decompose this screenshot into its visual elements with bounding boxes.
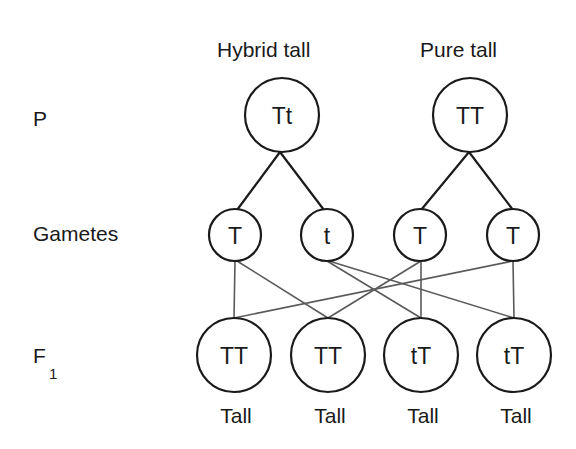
row-label-f1-letter: F (33, 344, 46, 367)
cross-line (234, 261, 513, 318)
offspring-genotype: TT (314, 343, 342, 369)
branch-line (237, 152, 280, 210)
parent-gamete-branches (237, 152, 513, 210)
branch-line (469, 152, 513, 210)
offspring-phenotype: Tall (314, 404, 346, 427)
row-label-f1-subscript: 1 (49, 365, 57, 382)
offspring-phenotype: Tall (407, 404, 439, 427)
monohybrid-cross-diagram: Hybrid tall Pure tall P Gametes F 1 Tt T… (0, 0, 576, 449)
offspring-node: TT Tall (197, 318, 271, 427)
gamete-allele: T (228, 223, 242, 249)
cross-line (234, 261, 235, 318)
gamete-allele: T (413, 223, 427, 249)
header-pure-tall: Pure tall (420, 38, 497, 61)
offspring-node: tT Tall (477, 318, 551, 427)
branch-line (421, 152, 469, 210)
parent-genotype: TT (456, 103, 484, 129)
offspring-genotype: tT (504, 343, 524, 369)
offspring-node: tT Tall (384, 318, 458, 427)
cross-line (237, 261, 328, 318)
row-label-f1: F 1 (33, 344, 57, 382)
row-label-parent: P (33, 107, 47, 130)
branch-line (280, 152, 324, 210)
offspring-genotype: tT (411, 343, 431, 369)
offspring-phenotype: Tall (500, 404, 532, 427)
parent-node-pure: TT (433, 78, 507, 152)
parent-genotype: Tt (272, 103, 293, 129)
gamete-node: t (301, 209, 353, 261)
row-label-gametes: Gametes (33, 222, 118, 245)
parent-node-hybrid: Tt (245, 78, 319, 152)
offspring-node: TT Tall (291, 318, 365, 427)
gamete-node: T (487, 209, 539, 261)
gamete-allele: T (506, 223, 520, 249)
gamete-allele: t (324, 223, 331, 249)
offspring-phenotype: Tall (220, 404, 252, 427)
gamete-offspring-crosses (234, 261, 514, 318)
gamete-node: T (209, 209, 261, 261)
cross-line (513, 261, 514, 318)
header-hybrid-tall: Hybrid tall (217, 38, 310, 61)
offspring-genotype: TT (220, 343, 248, 369)
gamete-node: T (394, 209, 446, 261)
